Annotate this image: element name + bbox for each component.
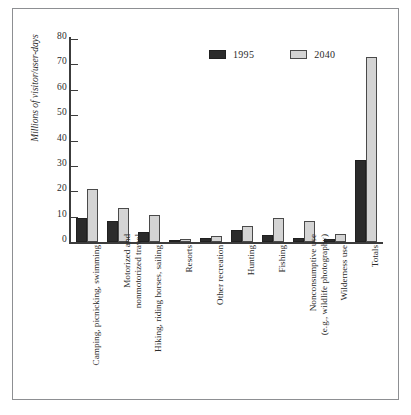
bar-2040 bbox=[335, 234, 346, 242]
y-axis-tick-label: 0 bbox=[27, 235, 67, 245]
bar-group bbox=[226, 39, 257, 242]
bar-1995 bbox=[169, 240, 180, 242]
x-axis-tick-labels: Camping, picnicking, swimmingMotorized a… bbox=[71, 245, 381, 385]
y-axis-title: Millions of visitor/user-days bbox=[30, 0, 40, 178]
bar-groups bbox=[71, 39, 381, 242]
bar-2040 bbox=[87, 189, 98, 242]
bar-group bbox=[133, 39, 164, 242]
bar-group bbox=[164, 39, 195, 242]
bar-2040 bbox=[273, 218, 284, 242]
bar-2040 bbox=[242, 226, 253, 242]
bar-group bbox=[102, 39, 133, 242]
bar-2040 bbox=[180, 239, 191, 242]
figure-frame: 01020304050607080 Millions of visitor/us… bbox=[12, 8, 399, 400]
bar-1995 bbox=[107, 221, 118, 242]
bar-1995 bbox=[231, 230, 242, 242]
bar-group bbox=[350, 39, 381, 242]
bar-1995 bbox=[293, 238, 304, 242]
y-axis-tick-label: 10 bbox=[27, 210, 67, 220]
x-axis-line bbox=[69, 242, 383, 244]
bar-2040 bbox=[211, 236, 222, 242]
bar-1995 bbox=[355, 160, 366, 242]
bar-2040 bbox=[366, 57, 377, 242]
bar-group bbox=[319, 39, 350, 242]
y-axis-tick-mark bbox=[71, 242, 78, 243]
bar-group bbox=[257, 39, 288, 242]
y-axis-tick-label: 20 bbox=[27, 184, 67, 194]
figure-container: 01020304050607080 Millions of visitor/us… bbox=[0, 0, 411, 415]
bar-1995 bbox=[262, 235, 273, 242]
bar-1995 bbox=[76, 218, 87, 242]
bar-group bbox=[288, 39, 319, 242]
bar-group bbox=[195, 39, 226, 242]
bar-1995 bbox=[200, 238, 211, 242]
bar-2040 bbox=[149, 215, 160, 242]
bar-group bbox=[71, 39, 102, 242]
